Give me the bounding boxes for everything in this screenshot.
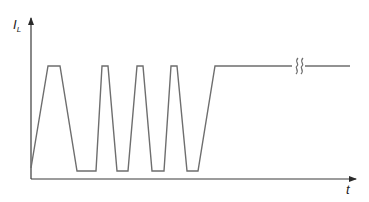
current-waveform-line [31, 66, 292, 171]
y-axis-label-subscript: L [17, 25, 21, 34]
x-axis-label: t [346, 182, 350, 197]
y-axis-label: IL [13, 17, 21, 34]
current-waveform-diagram [0, 0, 369, 202]
axis-break-icon [296, 58, 303, 74]
